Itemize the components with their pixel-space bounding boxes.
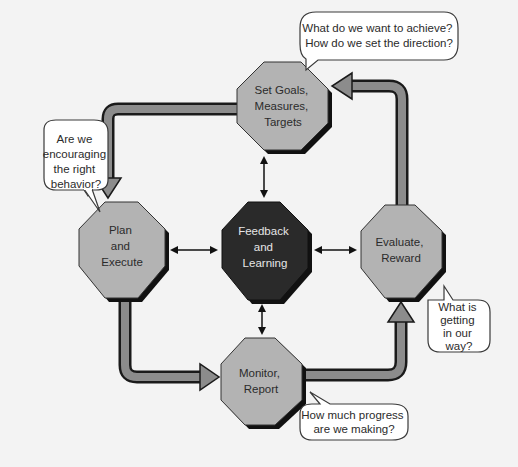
node-evaluate-reward: Evaluate, Reward [361, 205, 446, 302]
flow-arrow-goals-to-plan [95, 109, 237, 198]
flow-arrow-monitor-to-evaluate [300, 302, 414, 375]
flow-arrow-plan-to-monitor [125, 296, 219, 390]
flow-arrow-evaluate-to-goals [332, 73, 402, 207]
node-set-goals: Set Goals, Measures, Targets [237, 62, 332, 154]
bubble-evaluate-question: What is getting in our way? [428, 286, 490, 352]
node-monitor-report: Monitor, Report [221, 338, 306, 429]
node-plan-execute: Plan and Execute [79, 202, 169, 302]
bubble-plan-question: Are we encouraging the right behavior? [43, 120, 110, 212]
bubble-monitor-question: How much progress are we making? [300, 392, 408, 440]
bubble-goals-question: What do we want to achieve? How do we se… [300, 12, 458, 70]
feedback-cycle-diagram: Set Goals, Measures, Targets Plan and Ex… [0, 0, 518, 467]
node-feedback-learning: Feedback and Learning [222, 202, 312, 304]
